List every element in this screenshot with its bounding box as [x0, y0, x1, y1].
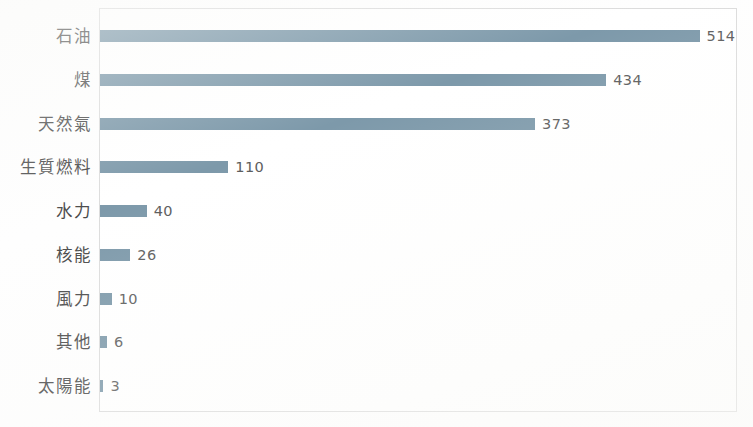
bar-row: 3 — [100, 380, 738, 392]
category-label: 天然氣 — [0, 111, 92, 135]
bar — [100, 74, 606, 86]
bar-chart: 51443437311040261063 石油煤天然氣生質燃料水力核能風力其他太… — [0, 0, 753, 427]
bar-value-label: 40 — [154, 203, 173, 219]
category-label: 石油 — [0, 23, 92, 47]
bar — [100, 118, 535, 130]
bar — [100, 336, 107, 348]
bar-row: 6 — [100, 336, 738, 348]
category-label: 生質燃料 — [0, 154, 92, 178]
bar — [100, 161, 228, 173]
category-label: 風力 — [0, 286, 92, 310]
bar-row: 514 — [100, 30, 738, 42]
category-label: 其他 — [0, 329, 92, 353]
bar-row: 110 — [100, 161, 738, 173]
bar-value-label: 26 — [137, 247, 156, 263]
bar — [100, 30, 700, 42]
bar-value-label: 514 — [707, 28, 736, 44]
bar-row: 10 — [100, 293, 738, 305]
category-axis: 石油煤天然氣生質燃料水力核能風力其他太陽能 — [0, 8, 92, 412]
bar-value-label: 373 — [542, 116, 571, 132]
bar-value-label: 3 — [110, 378, 120, 394]
category-label: 太陽能 — [0, 373, 92, 397]
category-label: 水力 — [0, 198, 92, 222]
bar — [100, 293, 112, 305]
bar-row: 26 — [100, 249, 738, 261]
bar — [100, 205, 147, 217]
bar — [100, 249, 130, 261]
bar-value-label: 434 — [613, 72, 642, 88]
bar — [100, 380, 103, 392]
bar-row: 434 — [100, 74, 738, 86]
bar-value-label: 6 — [114, 334, 124, 350]
bar-row: 373 — [100, 118, 738, 130]
plot-area: 51443437311040261063 — [99, 8, 737, 412]
bar-value-label: 110 — [235, 159, 264, 175]
category-label: 煤 — [0, 67, 92, 91]
category-label: 核能 — [0, 242, 92, 266]
bar-value-label: 10 — [119, 291, 138, 307]
bar-row: 40 — [100, 205, 738, 217]
